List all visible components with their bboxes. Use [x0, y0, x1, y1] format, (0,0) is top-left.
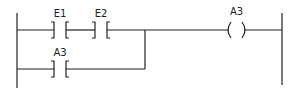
contact-e1-label: E1	[54, 8, 67, 19]
contact-a3: A3	[51, 47, 69, 77]
contact-e1: E1	[51, 8, 69, 38]
ladder-diagram: E1 E2 A3 A3	[0, 0, 291, 90]
contact-e2: E2	[92, 8, 110, 38]
coil-a3-label: A3	[230, 6, 243, 17]
coil-a3: A3	[228, 6, 245, 38]
contact-a3-label: A3	[53, 47, 66, 58]
contact-e2-label: E2	[95, 8, 108, 19]
